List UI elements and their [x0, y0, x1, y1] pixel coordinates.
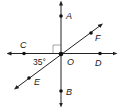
label-a: A — [65, 11, 72, 21]
label-o: O — [67, 57, 74, 67]
point-o — [59, 52, 64, 57]
angle-label: 35° — [33, 57, 46, 67]
point-b — [59, 89, 63, 93]
point-e — [27, 76, 31, 80]
geometry-diagram: A B C D E F O 35° — [0, 0, 123, 109]
point-f — [89, 31, 93, 35]
label-b: B — [66, 87, 72, 97]
label-c: C — [20, 40, 27, 50]
point-c — [22, 52, 26, 56]
point-a — [59, 14, 63, 18]
label-d: D — [95, 58, 102, 68]
label-e: E — [34, 77, 41, 87]
label-f: F — [95, 33, 101, 43]
point-d — [98, 52, 102, 56]
